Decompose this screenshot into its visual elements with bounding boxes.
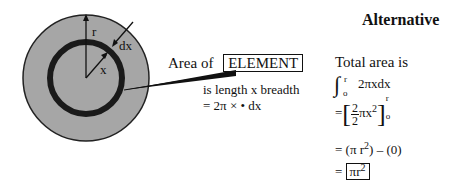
element-area-formula: = 2π × • dx <box>203 98 261 114</box>
radius-label: r <box>92 24 96 40</box>
dx-label: dx <box>119 38 132 54</box>
alternative-title: Alternative <box>362 11 439 29</box>
lower-limit: o <box>386 111 391 121</box>
result-box: πr2 <box>346 163 370 180</box>
evaluation-step: = (π r2) – (0) <box>335 140 402 158</box>
total-area-intro: Total area is <box>335 54 408 71</box>
area-of-element-heading: Area of ELEMENT <box>168 54 303 72</box>
fraction: 22 <box>351 102 359 127</box>
integral-sign: ∫ <box>334 72 340 98</box>
length-breadth-text: is length x breadth <box>203 82 299 98</box>
element-box: ELEMENT <box>223 54 303 72</box>
antiderivative-step: =[22πx2]ro <box>335 101 386 127</box>
upper-limit: r <box>386 93 389 103</box>
result-step: = πr2 <box>335 162 370 180</box>
area-of-label: Area of <box>168 55 213 71</box>
integral-upper-limit: r <box>344 74 347 84</box>
integral-lower-limit: o <box>343 88 348 98</box>
integrand: 2πxdx <box>358 76 391 92</box>
x-label: x <box>100 62 107 78</box>
